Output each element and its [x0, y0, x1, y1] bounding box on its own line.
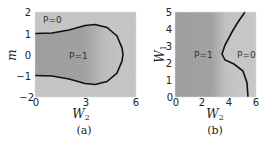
- region-label-p1-a: P=1: [69, 51, 88, 61]
- xlabel-a: W2: [72, 107, 89, 122]
- xlabel-b: W2: [206, 107, 223, 122]
- xtick-b: 6: [253, 97, 259, 108]
- region-label-p0-a: P=0: [43, 15, 62, 25]
- ytick-a: −2: [19, 92, 34, 103]
- figure: P=0 P=1 2 1 0 −1 −2 0 3 6 m W2 (a) P=1 P…: [0, 0, 263, 147]
- ytick-a: 0: [25, 50, 31, 61]
- xtick-b: 2: [199, 97, 205, 108]
- ytick-a: −1: [16, 71, 31, 82]
- panel-a: P=0 P=1 2 1 0 −1 −2 0 3 6 m W2 (a): [5, 7, 139, 137]
- xtick-b: 4: [226, 97, 232, 108]
- region-label-p1-b: P=1: [194, 50, 213, 60]
- panel-b: P=1 P=0 5 4 3 2 1 0 0 2 4 6 W1 W2 (b): [153, 7, 259, 137]
- region-label-p0-b: P=0: [237, 50, 256, 60]
- ytick-b: 4: [166, 24, 172, 35]
- caption-a: (a): [76, 124, 91, 137]
- xtick-b: 0: [173, 97, 179, 108]
- xtick-a: 0: [33, 97, 39, 108]
- xtick-a: 6: [133, 97, 139, 108]
- ytick-b: 5: [166, 7, 172, 18]
- ylabel-b: W1: [153, 45, 168, 62]
- caption-b: (b): [207, 124, 223, 137]
- ytick-b: 1: [166, 75, 172, 86]
- ytick-a: 1: [25, 29, 31, 40]
- ylabel-a: m: [5, 49, 19, 60]
- ytick-a: 2: [25, 7, 31, 18]
